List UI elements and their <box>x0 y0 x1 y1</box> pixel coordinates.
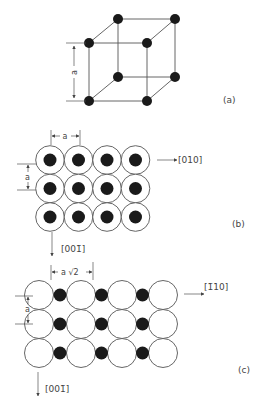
panel-b-label: (b) <box>232 219 245 229</box>
panel-b-direction-right: [010] <box>178 155 202 165</box>
panel-a-label: (a) <box>223 95 236 105</box>
panel-c-direction-down: [001̄] <box>45 384 69 394</box>
panel-a-cube <box>89 19 175 101</box>
panel-b-direction-down: [001̄] <box>61 244 85 254</box>
atom <box>170 14 180 24</box>
panel-c-dim-horizontal: a √2 <box>61 268 79 277</box>
panel-b-grid <box>36 146 150 232</box>
atom <box>142 38 152 48</box>
crystal-structure-figure: a (a) a a [010] [001̄] (b) <box>0 0 263 408</box>
atom <box>113 72 123 82</box>
atom <box>113 14 123 24</box>
panel-b-dim-vertical: a <box>25 173 30 182</box>
panel-c-direction-right: [1̄10] <box>204 282 228 292</box>
panel-b-dim-horizontal: a <box>63 132 68 141</box>
panel-a-atoms <box>84 14 180 106</box>
atom <box>170 72 180 82</box>
panel-a-dimension-label: a <box>70 70 79 75</box>
panel-c-grid <box>25 281 178 368</box>
panel-c-label: (c) <box>238 365 250 375</box>
panel-c-dim-vertical: a <box>25 305 30 314</box>
atom <box>142 96 152 106</box>
